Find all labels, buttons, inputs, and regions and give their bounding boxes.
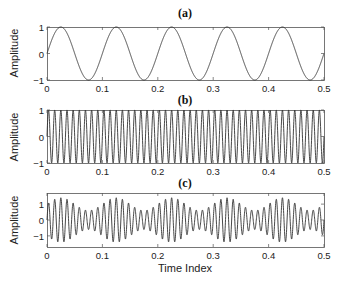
panel-a-ytick-label: 0 bbox=[39, 48, 44, 59]
panel-b-xtick-label: 0.1 bbox=[96, 166, 109, 177]
panel-c-xtick-label: 0.1 bbox=[96, 250, 109, 261]
panel-a-xtick-label: 0.3 bbox=[207, 83, 220, 94]
panel-c-ytick-label: 1 bbox=[39, 199, 44, 210]
panel-c-ylabel: Amplitude bbox=[8, 196, 20, 245]
panel-a-signal-line bbox=[47, 27, 324, 80]
panel-b-ytick-label: 1 bbox=[39, 105, 44, 116]
panel-a-ytick-label: 1 bbox=[39, 22, 44, 33]
panel-c-xtick-label: 0 bbox=[44, 250, 49, 261]
panel-b-ytick-label: 0 bbox=[39, 131, 44, 142]
panel-b-signal-line bbox=[47, 110, 324, 163]
panel-c-ytick-label: −1 bbox=[33, 230, 44, 241]
panel-c-ytick-label: 0 bbox=[39, 215, 44, 226]
panel-b-title: (b) bbox=[178, 93, 193, 108]
panel-c-title: (c) bbox=[178, 176, 191, 191]
panel-c-xlabel: Time Index bbox=[158, 262, 212, 274]
panel-c-xtick-label: 0.2 bbox=[151, 250, 164, 261]
panel-c-xtick-label: 0.5 bbox=[317, 250, 330, 261]
panel-b-xtick-label: 0 bbox=[44, 166, 49, 177]
panel-b-ytick-label: −1 bbox=[33, 158, 44, 169]
panel-a-xtick-label: 0.2 bbox=[151, 83, 164, 94]
panel-b-xtick-label: 0.5 bbox=[317, 166, 330, 177]
panel-b-xtick-label: 0.3 bbox=[207, 166, 220, 177]
panel-a-ytick-label: −1 bbox=[33, 75, 44, 86]
panel-a-title: (a) bbox=[178, 6, 192, 21]
panel-a-xtick-label: 0.5 bbox=[317, 83, 330, 94]
panel-c-xtick-label: 0.4 bbox=[262, 250, 275, 261]
panel-a-xtick-label: 0.4 bbox=[262, 83, 275, 94]
panel-c-signal-line bbox=[47, 198, 324, 242]
panel-a-xtick-label: 0.1 bbox=[96, 83, 109, 94]
panel-b-xtick-label: 0.2 bbox=[151, 166, 164, 177]
panel-b-ylabel: Amplitude bbox=[8, 113, 20, 162]
figure: (a) (b) (c) Amplitude Amplitude Amplitud… bbox=[0, 0, 346, 284]
panel-b-xtick-label: 0.4 bbox=[262, 166, 275, 177]
panel-a-ylabel: Amplitude bbox=[8, 29, 20, 78]
panel-a-xtick-label: 0 bbox=[44, 83, 49, 94]
plot-canvas bbox=[0, 0, 346, 284]
panel-c-xtick-label: 0.3 bbox=[207, 250, 220, 261]
